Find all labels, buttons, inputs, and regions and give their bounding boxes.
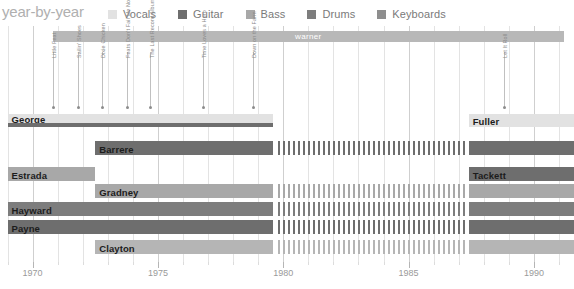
plot-area: warner Little FeatSailin' ShoesDixie Chi… (0, 26, 574, 262)
page-title: year-by-year (2, 3, 84, 20)
album-stem (203, 52, 204, 108)
bar-segment (469, 141, 574, 155)
bar-segment (469, 202, 574, 216)
axis-tick-1991 (559, 262, 560, 265)
axis-tick-1984 (384, 262, 385, 265)
album-stem (504, 52, 505, 108)
axis-tick-1974 (133, 262, 134, 265)
album-label: The Last Record Album (149, 0, 155, 58)
axis-tick-1982 (333, 262, 334, 265)
legend-swatch-icon (377, 10, 386, 19)
album-label: Time Loves a Hero (201, 10, 207, 58)
axis-tick-label: 1975 (148, 268, 168, 278)
axis-tick-1971 (58, 262, 59, 265)
album-stem (53, 52, 54, 108)
album-dot-icon (149, 106, 152, 109)
axis-tick-1977 (208, 262, 209, 265)
legend-swatch-icon (108, 10, 117, 19)
x-axis: 19701975198019851990 (0, 262, 574, 289)
axis-tick-1978 (233, 262, 234, 265)
axis-tick-label: 1980 (273, 268, 293, 278)
bar-segment (8, 123, 274, 127)
album-stem (102, 52, 103, 108)
album-dot-icon (101, 106, 104, 109)
axis-tick-1973 (108, 262, 109, 265)
bar-label-payne: Payne (12, 224, 41, 234)
bar-segment (278, 240, 466, 254)
bar-segment (278, 141, 466, 155)
legend-swatch-icon (307, 10, 316, 19)
axis-tick-1988 (484, 262, 485, 265)
legend-label: Keyboards (392, 8, 446, 20)
bar-segment (278, 184, 466, 198)
bar-label-clayton: Clayton (99, 244, 135, 254)
album-label: Little Feat (51, 33, 57, 58)
axis-tick-1979 (258, 262, 259, 265)
legend-label: Guitar (193, 8, 224, 20)
album-stem (127, 52, 128, 108)
album-label: Let It Roll (502, 34, 508, 58)
axis-tick-1969 (8, 262, 9, 265)
bar-label-tackett: Tackett (473, 171, 506, 181)
album-stem (78, 52, 79, 108)
axis-tick-1987 (459, 262, 460, 265)
legend-label: Bass (261, 8, 286, 20)
bar-label-estrada: Estrada (12, 171, 48, 181)
album-dot-icon (503, 106, 506, 109)
bar-segment (469, 240, 574, 254)
bar-segment (8, 114, 274, 123)
axis-tick-1981 (308, 262, 309, 265)
bar-label-gradney: Gradney (99, 188, 138, 198)
legend-item-drums: Drums (307, 8, 355, 20)
album-dot-icon (52, 106, 55, 109)
bar-segment (8, 220, 274, 234)
album-dot-icon (77, 106, 80, 109)
album-stem (253, 52, 254, 108)
axis-tick-1983 (358, 262, 359, 265)
album-label: Sailin' Shoes (76, 25, 82, 58)
album-stem (150, 52, 151, 108)
legend-item-keyboards: Keyboards (377, 8, 446, 20)
album-dot-icon (126, 106, 129, 109)
axis-tick-label: 1985 (399, 268, 419, 278)
album-label: Feats Don't Fail Me Now (125, 0, 131, 58)
axis-tick-1989 (509, 262, 510, 265)
axis-tick-1986 (434, 262, 435, 265)
chart-header: year-by-year VocalsGuitarBassDrumsKeyboa… (0, 0, 574, 26)
bar-label-barrere: Barrere (99, 145, 134, 155)
legend-swatch-icon (178, 10, 187, 19)
album-dot-icon (202, 106, 205, 109)
axis-tick-1972 (83, 262, 84, 265)
bar-segment (278, 220, 466, 234)
bar-segment (278, 202, 466, 216)
legend-label: Drums (322, 8, 355, 20)
axis-tick-label: 1990 (524, 268, 544, 278)
bar-segment (469, 184, 574, 198)
legend: VocalsGuitarBassDrumsKeyboards (108, 8, 468, 20)
bar-segment (469, 220, 574, 234)
bar-label-hayward: Hayward (12, 206, 52, 216)
axis-tick-1976 (183, 262, 184, 265)
album-dot-icon (252, 106, 255, 109)
album-label: Dixie Chicken (100, 23, 106, 58)
bar-label-fuller: Fuller (473, 117, 499, 127)
axis-tick-label: 1970 (23, 268, 43, 278)
album-label: Down on the Farm (251, 11, 257, 58)
